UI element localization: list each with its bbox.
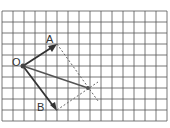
label-o: O [12,56,21,68]
point-o [21,64,26,69]
grid [2,11,167,121]
vector-o-a [23,46,54,66]
dashed-line-b-r [57,82,98,110]
arrowhead-a-icon [48,44,57,52]
point-r [86,86,90,90]
label-a: A [46,33,54,45]
dashed-line-a-r [57,44,98,101]
vector-diagram: O A B [0,0,170,128]
label-b: B [37,101,44,113]
